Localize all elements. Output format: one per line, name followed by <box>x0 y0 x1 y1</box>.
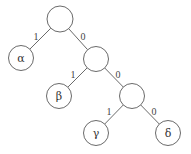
edge-label-root-n1: 0 <box>81 31 86 42</box>
node-gamma: γ <box>84 121 109 146</box>
node-circle <box>47 6 73 32</box>
node-beta: β <box>47 84 72 109</box>
node-n1 <box>84 47 109 72</box>
node-circle <box>120 84 145 109</box>
node-delta: δ <box>156 121 181 146</box>
nodes: αβγδ <box>9 6 181 146</box>
node-label: δ <box>165 127 172 140</box>
edge-label-root-alpha: 1 <box>34 31 39 42</box>
node-label: α <box>17 52 25 65</box>
node-alpha: α <box>9 46 34 71</box>
code-tree-diagram: 101010 αβγδ <box>0 0 191 154</box>
node-label: β <box>56 90 62 103</box>
edges <box>30 28 159 124</box>
node-label: γ <box>93 127 100 140</box>
node-n2 <box>120 84 145 109</box>
node-circle <box>84 47 109 72</box>
edge-label-n1-n2: 0 <box>116 69 121 80</box>
edge-label-n1-beta: 1 <box>71 69 76 80</box>
edge-label-n2-gamma: 1 <box>107 106 112 117</box>
node-root <box>47 6 73 32</box>
edge-label-n2-delta: 0 <box>152 106 157 117</box>
